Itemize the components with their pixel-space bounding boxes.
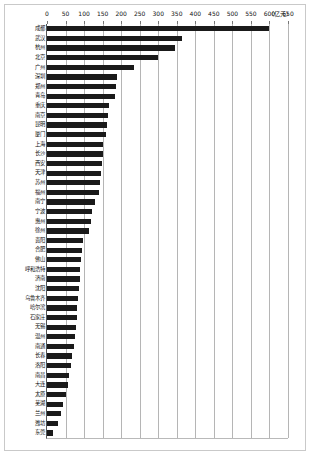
bar xyxy=(47,103,109,108)
bar-row: 无锡 xyxy=(47,322,288,332)
category-label: 石家庄 xyxy=(30,315,45,320)
bar-row: 芜湖 xyxy=(47,399,288,409)
category-label: 潍坊 xyxy=(35,421,45,426)
bar-row: 石家庄 xyxy=(47,313,288,323)
bar-row: 杭州 xyxy=(47,43,288,53)
bar-row: 温州 xyxy=(47,332,288,342)
category-label: 昆明 xyxy=(35,122,45,127)
bar xyxy=(47,199,95,204)
bar-row: 福州 xyxy=(47,188,288,198)
x-tick-label: 50 xyxy=(62,10,70,17)
bar xyxy=(47,238,83,243)
bar-row: 大连 xyxy=(47,380,288,390)
category-label: 广州 xyxy=(35,65,45,70)
x-tick-label: 400 xyxy=(190,10,201,17)
bar-row: 乌鲁木齐 xyxy=(47,294,288,304)
category-label: 南通 xyxy=(35,344,45,349)
bar-row: 青岛 xyxy=(47,91,288,101)
bar xyxy=(47,325,76,330)
bar-row: 合肥 xyxy=(47,245,288,255)
category-label: 厦门 xyxy=(35,132,45,137)
bar xyxy=(47,113,108,118)
bar xyxy=(47,94,115,99)
bar-row: 武汉 xyxy=(47,34,288,44)
bar xyxy=(47,353,72,358)
category-label: 福州 xyxy=(35,190,45,195)
category-label: 乌鲁木齐 xyxy=(25,296,45,301)
bar xyxy=(47,402,63,407)
category-label: 沈阳 xyxy=(35,286,45,291)
bar xyxy=(47,296,78,301)
category-label: 南京 xyxy=(35,113,45,118)
bar xyxy=(47,344,74,349)
bar xyxy=(47,267,80,272)
category-label: 长沙 xyxy=(35,151,45,156)
bar xyxy=(47,65,134,70)
bar xyxy=(47,180,100,185)
category-label: 成都 xyxy=(35,26,45,31)
category-label: 天津 xyxy=(35,170,45,175)
x-tick-label: 350 xyxy=(171,10,182,17)
bar xyxy=(47,55,158,60)
bar xyxy=(47,122,107,127)
bar-row: 长沙 xyxy=(47,149,288,159)
category-label: 武汉 xyxy=(35,36,45,41)
category-label: 南昌 xyxy=(35,373,45,378)
x-tick-label: 450 xyxy=(208,10,219,17)
bar xyxy=(47,421,58,426)
bar-row: 佛山 xyxy=(47,255,288,265)
bar-row: 郑州 xyxy=(47,82,288,92)
bar xyxy=(47,171,101,176)
bar xyxy=(47,430,53,435)
category-label: 苏州 xyxy=(35,180,45,185)
bar xyxy=(47,151,103,156)
bar-row: 南京 xyxy=(47,111,288,121)
category-label: 惠州 xyxy=(35,219,45,224)
bar-row: 南宁 xyxy=(47,197,288,207)
bar xyxy=(47,190,99,195)
bar-row: 厦门 xyxy=(47,130,288,140)
bar-row: 苏州 xyxy=(47,178,288,188)
category-label: 长春 xyxy=(35,353,45,358)
bar-row: 南通 xyxy=(47,342,288,352)
bar xyxy=(47,334,75,339)
category-label: 哈尔滨 xyxy=(30,305,45,310)
category-label: 合肥 xyxy=(35,247,45,252)
category-label: 西安 xyxy=(35,161,45,166)
bar-row: 贵阳 xyxy=(47,236,288,246)
x-tick-label: 600 xyxy=(264,10,275,17)
x-tick-label: 100 xyxy=(78,10,89,17)
bar xyxy=(47,286,79,291)
category-label: 兰州 xyxy=(35,411,45,416)
x-tick-label: 550 xyxy=(245,10,256,17)
bar xyxy=(47,74,117,79)
bar xyxy=(47,228,89,233)
category-label: 无锡 xyxy=(35,324,45,329)
bar xyxy=(47,392,66,397)
bar-row: 洛阳 xyxy=(47,361,288,371)
bar-row: 呼和浩特 xyxy=(47,265,288,275)
bar xyxy=(47,382,68,387)
bar-row: 沈阳 xyxy=(47,284,288,294)
plot-area: 050100150200250300350400450500550600650 … xyxy=(46,24,288,439)
bar xyxy=(47,276,80,281)
bar-row: 惠州 xyxy=(47,217,288,227)
bar-row: 太原 xyxy=(47,390,288,400)
bar xyxy=(47,132,106,137)
bar xyxy=(47,315,77,320)
gridline-650 xyxy=(288,24,289,438)
bar-row: 上海 xyxy=(47,140,288,150)
tickmark-650 xyxy=(288,21,289,24)
category-label: 芜湖 xyxy=(35,401,45,406)
category-label: 东莞 xyxy=(35,430,45,435)
x-tick-label: 500 xyxy=(227,10,238,17)
category-label: 大连 xyxy=(35,382,45,387)
bar xyxy=(47,411,61,416)
bar-row: 哈尔滨 xyxy=(47,303,288,313)
bar xyxy=(47,84,116,89)
category-label: 南宁 xyxy=(35,199,45,204)
bar xyxy=(47,45,175,50)
bar xyxy=(47,161,102,166)
category-label: 贵阳 xyxy=(35,238,45,243)
x-tick-label: 200 xyxy=(115,10,126,17)
